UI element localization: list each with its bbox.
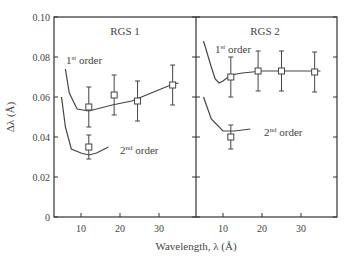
y-axis-label: Δλ (Å) (4, 101, 17, 132)
square-marker (170, 82, 176, 88)
rgs2-first-order-label: 1st order (215, 43, 251, 55)
square-marker (228, 134, 234, 140)
plot-frames (54, 17, 337, 217)
y-tick-label: 0.06 (33, 92, 51, 103)
y-tick-label: 0.08 (33, 52, 51, 63)
square-marker (228, 74, 234, 80)
y-tick-label: 0.10 (33, 12, 51, 23)
model-curve (204, 97, 251, 131)
rgs1-second-order-label: 2nd order (120, 144, 159, 156)
square-marker (111, 92, 117, 98)
chart: 00.020.040.060.080.10102030102030 RGS 1 … (0, 0, 354, 262)
model-curve (62, 97, 109, 155)
y-tick-label: 0.02 (33, 172, 51, 183)
square-marker (86, 104, 92, 110)
axis-ticks: 00.020.040.060.080.10102030102030 (33, 12, 338, 234)
x-tick-label: 10 (76, 223, 86, 234)
square-marker (135, 98, 141, 104)
y-tick-label: 0 (45, 212, 50, 223)
square-marker (279, 68, 285, 74)
panel-title-rgs1: RGS 1 (110, 25, 140, 37)
rgs1-first-order-label: 1st order (66, 54, 102, 66)
square-marker (255, 68, 261, 74)
square-marker (86, 144, 92, 150)
x-tick-label: 30 (296, 223, 306, 234)
x-tick-label: 10 (218, 223, 228, 234)
data-points (86, 51, 318, 159)
model-curve (65, 69, 178, 111)
x-tick-label: 20 (257, 223, 267, 234)
panel-title-rgs2: RGS 2 (250, 25, 280, 37)
rgs2-second-order-label: 2nd order (264, 126, 303, 138)
x-tick-label: 20 (115, 223, 125, 234)
x-tick-label: 30 (154, 223, 164, 234)
x-axis-label: Wavelength, λ (Å) (155, 240, 236, 253)
square-marker (312, 69, 318, 75)
y-tick-label: 0.04 (33, 132, 51, 143)
